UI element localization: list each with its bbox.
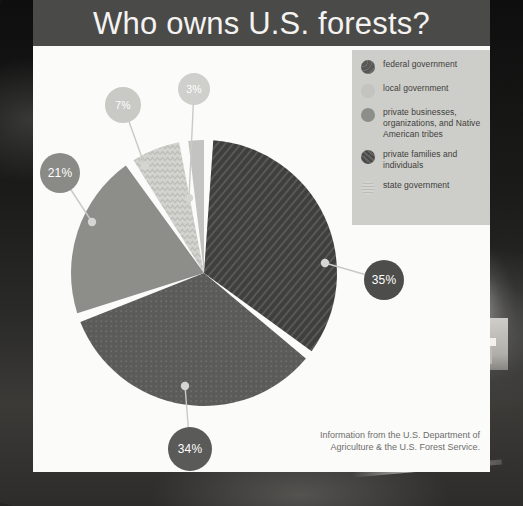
callout-bubble[interactable]: 34% bbox=[168, 427, 212, 471]
circle-swatch-state-icon bbox=[361, 181, 375, 195]
infographic-stage: Who owns U.S. forests? bbox=[0, 0, 523, 506]
callout-bubble[interactable]: 7% bbox=[105, 87, 141, 123]
legend-item-label: private families and individuals bbox=[383, 149, 482, 171]
background-sign-pole bbox=[490, 346, 492, 364]
page-title: Who owns U.S. forests? bbox=[93, 8, 430, 39]
callout-bubble[interactable]: 3% bbox=[178, 73, 210, 105]
callout-bubble[interactable]: 21% bbox=[40, 153, 80, 193]
legend-item-label: state government bbox=[383, 180, 449, 191]
legend-item-federal-government[interactable]: federal government bbox=[361, 59, 482, 74]
legend-item-label: local government bbox=[383, 83, 449, 94]
legend-item-label: federal government bbox=[383, 59, 457, 70]
circle-swatch-private-families-icon bbox=[361, 150, 375, 164]
title-band: Who owns U.S. forests? bbox=[33, 0, 490, 46]
circle-swatch-private-business-icon bbox=[361, 108, 375, 122]
circle-swatch-local-icon bbox=[361, 84, 375, 98]
circle-swatch-federal-icon bbox=[361, 60, 375, 74]
callout-bubble[interactable]: 35% bbox=[364, 260, 404, 300]
legend-item-label: private businesses, organizations, and N… bbox=[383, 107, 482, 140]
footer-line-2: Agriculture & the U.S. Forest Service. bbox=[280, 442, 480, 454]
legend-item-state-government[interactable]: state government bbox=[361, 180, 482, 195]
chart-legend: federal government local government priv… bbox=[352, 50, 490, 225]
legend-item-private-families[interactable]: private families and individuals bbox=[361, 149, 482, 171]
legend-item-private-businesses[interactable]: private businesses, organizations, and N… bbox=[361, 107, 482, 140]
footer-line-1: Information from the U.S. Department of bbox=[280, 430, 480, 442]
source-footer: Information from the U.S. Department of … bbox=[280, 430, 480, 453]
legend-item-local-government[interactable]: local government bbox=[361, 83, 482, 98]
